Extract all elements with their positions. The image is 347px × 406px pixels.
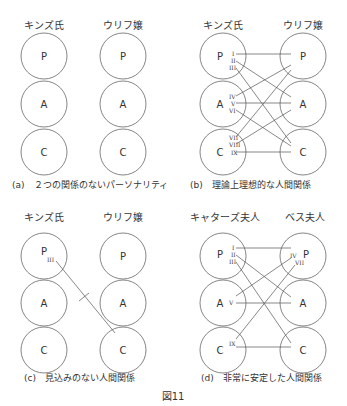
panel-d-left-a: A bbox=[217, 298, 224, 309]
panel-d-label-v: V bbox=[228, 299, 234, 306]
panel-a-right-person: ウリフ嬢 bbox=[103, 19, 143, 31]
panel-c-left-a: A bbox=[41, 298, 48, 309]
panel-b-label-vi: VI bbox=[228, 107, 236, 114]
panel-c: キンズ氏 ウリフ嬢 P A C P A C III (c) 見込みのない人間関係 bbox=[21, 211, 146, 383]
panel-d-line-vii bbox=[236, 265, 295, 339]
panel-d-label-i: I bbox=[232, 244, 235, 251]
panel-a-right-c: C bbox=[120, 147, 127, 158]
panel-d-label-ix: IX bbox=[229, 340, 236, 347]
panel-b-left-p: P bbox=[217, 51, 223, 62]
panel-b-right-person: ウリフ嬢 bbox=[283, 19, 323, 31]
panel-a: キンズ氏 ウリフ嬢 P A C P A C (a) ２つの関係のないパーソナリテ… bbox=[12, 19, 168, 190]
panel-c-left-c: C bbox=[41, 345, 48, 356]
panel-c-right-a: A bbox=[120, 298, 127, 309]
panel-b-left-a: A bbox=[217, 99, 224, 110]
panel-a-right-a: A bbox=[120, 99, 127, 110]
panel-b-right-p: P bbox=[300, 51, 306, 62]
panel-d-label-iv: IV bbox=[290, 252, 297, 259]
panel-d-right-c: C bbox=[300, 345, 307, 356]
figure-label: 図11 bbox=[162, 391, 185, 402]
panel-d-left-person: キャターズ夫人 bbox=[190, 211, 260, 223]
panel-c-right-person: ウリフ嬢 bbox=[103, 211, 143, 223]
panel-b-label-vii: VII bbox=[228, 134, 239, 141]
panel-a-right-p: P bbox=[120, 51, 126, 62]
panel-b-label-v: V bbox=[230, 100, 236, 107]
panel-a-left-a: A bbox=[41, 99, 48, 110]
panel-b: キンズ氏 ウリフ嬢 P A C P A C I II III IV V VI V… bbox=[190, 19, 326, 190]
panel-d-line-iii bbox=[236, 262, 291, 343]
figure-11-diagram: キンズ氏 ウリフ嬢 P A C P A C (a) ２つの関係のないパーソナリテ… bbox=[0, 0, 347, 406]
panel-b-label-ii: II bbox=[231, 57, 236, 64]
panel-a-left-person: キンズ氏 bbox=[24, 19, 64, 31]
panel-d-left-p: P bbox=[217, 249, 223, 260]
panel-b-label-i: I bbox=[232, 50, 235, 57]
panel-c-left-person: キンズ氏 bbox=[24, 211, 64, 223]
panel-b-left-c: C bbox=[217, 147, 224, 158]
panel-b-label-iv: IV bbox=[229, 93, 236, 100]
panel-d-right-person: ベス夫人 bbox=[285, 212, 325, 223]
panel-b-label-viii: VIII bbox=[228, 141, 241, 148]
panel-a-left-c: C bbox=[41, 147, 48, 158]
panel-d-caption: (d) 非常に安定した人間関係 bbox=[201, 372, 322, 383]
panel-d-left-c: C bbox=[217, 345, 224, 356]
panel-c-label-iii: III bbox=[47, 256, 55, 263]
panel-d-label-iii: III bbox=[229, 258, 237, 265]
panel-b-label-iii: III bbox=[229, 64, 237, 71]
panel-c-caption: (c) 見込みのない人間関係 bbox=[24, 373, 135, 383]
panel-b-right-c: C bbox=[300, 147, 307, 158]
panel-b-caption: (b) 理論上理想的な人間関係 bbox=[190, 179, 311, 190]
panel-d-label-vii: VII bbox=[294, 259, 305, 266]
panel-b-left-person: キンズ氏 bbox=[203, 19, 243, 31]
panel-c-right-p: P bbox=[120, 251, 126, 262]
panel-d-label-ii: II bbox=[231, 251, 236, 258]
panel-c-right-c: C bbox=[120, 345, 127, 356]
panel-d: キャターズ夫人 ベス夫人 P A C P A C I II III IV V V… bbox=[190, 211, 326, 383]
panel-b-right-a: A bbox=[300, 99, 307, 110]
panel-d-right-a: A bbox=[300, 298, 307, 309]
panel-a-caption: (a) ２つの関係のないパーソナリティ bbox=[12, 180, 168, 190]
panel-a-left-p: P bbox=[41, 51, 47, 62]
